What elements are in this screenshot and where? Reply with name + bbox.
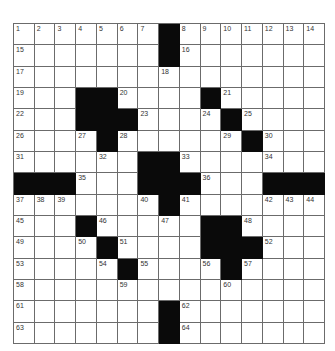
grid-cell[interactable] — [55, 323, 76, 344]
grid-cell[interactable]: 40 — [138, 195, 159, 216]
grid-cell[interactable] — [242, 88, 263, 109]
grid-cell[interactable]: 1 — [14, 24, 35, 45]
grid-cell[interactable]: 63 — [14, 323, 35, 344]
grid-cell[interactable] — [138, 301, 159, 322]
grid-cell[interactable]: 20 — [118, 88, 139, 109]
grid-cell[interactable] — [242, 152, 263, 173]
grid-cell[interactable]: 15 — [14, 45, 35, 66]
grid-cell[interactable] — [118, 45, 139, 66]
grid-cell[interactable] — [284, 131, 305, 152]
grid-cell[interactable] — [55, 280, 76, 301]
grid-cell[interactable]: 55 — [138, 259, 159, 280]
grid-cell[interactable]: 57 — [242, 259, 263, 280]
grid-cell[interactable] — [284, 88, 305, 109]
grid-cell[interactable] — [304, 67, 325, 88]
grid-cell[interactable]: 58 — [14, 280, 35, 301]
grid-cell[interactable] — [180, 88, 201, 109]
grid-cell[interactable] — [35, 280, 56, 301]
grid-cell[interactable]: 12 — [263, 24, 284, 45]
grid-cell[interactable] — [242, 45, 263, 66]
grid-cell[interactable]: 4 — [76, 24, 97, 45]
grid-cell[interactable]: 51 — [118, 237, 139, 258]
grid-cell[interactable]: 62 — [180, 301, 201, 322]
grid-cell[interactable] — [118, 67, 139, 88]
grid-cell[interactable] — [180, 280, 201, 301]
grid-cell[interactable] — [180, 216, 201, 237]
grid-cell[interactable] — [304, 109, 325, 130]
grid-cell[interactable]: 3 — [55, 24, 76, 45]
grid-cell[interactable] — [221, 195, 242, 216]
grid-cell[interactable] — [55, 152, 76, 173]
grid-cell[interactable] — [76, 67, 97, 88]
grid-cell[interactable] — [304, 216, 325, 237]
grid-cell[interactable]: 16 — [180, 45, 201, 66]
grid-cell[interactable] — [263, 216, 284, 237]
grid-cell[interactable] — [138, 45, 159, 66]
grid-cell[interactable]: 46 — [97, 216, 118, 237]
grid-cell[interactable] — [180, 109, 201, 130]
grid-cell[interactable] — [55, 88, 76, 109]
grid-cell[interactable] — [284, 67, 305, 88]
grid-cell[interactable] — [97, 323, 118, 344]
grid-cell[interactable] — [159, 259, 180, 280]
grid-cell[interactable] — [97, 173, 118, 194]
grid-cell[interactable] — [55, 131, 76, 152]
grid-cell[interactable]: 43 — [284, 195, 305, 216]
grid-cell[interactable] — [159, 88, 180, 109]
grid-cell[interactable] — [201, 195, 222, 216]
grid-cell[interactable]: 24 — [201, 109, 222, 130]
grid-cell[interactable]: 21 — [221, 88, 242, 109]
grid-cell[interactable]: 33 — [180, 152, 201, 173]
grid-cell[interactable]: 50 — [76, 237, 97, 258]
grid-cell[interactable] — [97, 280, 118, 301]
grid-cell[interactable] — [201, 131, 222, 152]
grid-cell[interactable]: 54 — [97, 259, 118, 280]
grid-cell[interactable] — [35, 67, 56, 88]
grid-cell[interactable] — [221, 45, 242, 66]
grid-cell[interactable] — [55, 301, 76, 322]
grid-cell[interactable]: 19 — [14, 88, 35, 109]
grid-cell[interactable] — [242, 280, 263, 301]
grid-cell[interactable]: 31 — [14, 152, 35, 173]
grid-cell[interactable] — [35, 152, 56, 173]
grid-cell[interactable] — [35, 259, 56, 280]
grid-cell[interactable] — [201, 45, 222, 66]
grid-cell[interactable] — [221, 67, 242, 88]
grid-cell[interactable]: 32 — [97, 152, 118, 173]
grid-cell[interactable] — [201, 323, 222, 344]
grid-cell[interactable] — [55, 45, 76, 66]
grid-cell[interactable] — [159, 280, 180, 301]
grid-cell[interactable] — [76, 45, 97, 66]
grid-cell[interactable]: 37 — [14, 195, 35, 216]
grid-cell[interactable] — [284, 45, 305, 66]
grid-cell[interactable] — [138, 67, 159, 88]
grid-cell[interactable] — [35, 323, 56, 344]
grid-cell[interactable] — [76, 152, 97, 173]
grid-cell[interactable] — [304, 323, 325, 344]
grid-cell[interactable] — [284, 216, 305, 237]
grid-cell[interactable] — [221, 323, 242, 344]
grid-cell[interactable]: 23 — [138, 109, 159, 130]
grid-cell[interactable] — [263, 280, 284, 301]
grid-cell[interactable]: 14 — [304, 24, 325, 45]
grid-cell[interactable]: 64 — [180, 323, 201, 344]
grid-cell[interactable] — [35, 301, 56, 322]
grid-cell[interactable] — [242, 195, 263, 216]
grid-cell[interactable] — [221, 301, 242, 322]
grid-cell[interactable]: 52 — [263, 237, 284, 258]
grid-cell[interactable] — [263, 323, 284, 344]
grid-cell[interactable] — [180, 131, 201, 152]
grid-cell[interactable] — [304, 88, 325, 109]
grid-cell[interactable] — [55, 109, 76, 130]
grid-cell[interactable] — [35, 237, 56, 258]
grid-cell[interactable] — [242, 173, 263, 194]
grid-cell[interactable] — [304, 280, 325, 301]
grid-cell[interactable]: 18 — [159, 67, 180, 88]
grid-cell[interactable] — [221, 173, 242, 194]
grid-cell[interactable] — [284, 280, 305, 301]
grid-cell[interactable] — [118, 301, 139, 322]
grid-cell[interactable] — [242, 323, 263, 344]
grid-cell[interactable]: 35 — [76, 173, 97, 194]
grid-cell[interactable] — [201, 301, 222, 322]
grid-cell[interactable]: 10 — [221, 24, 242, 45]
